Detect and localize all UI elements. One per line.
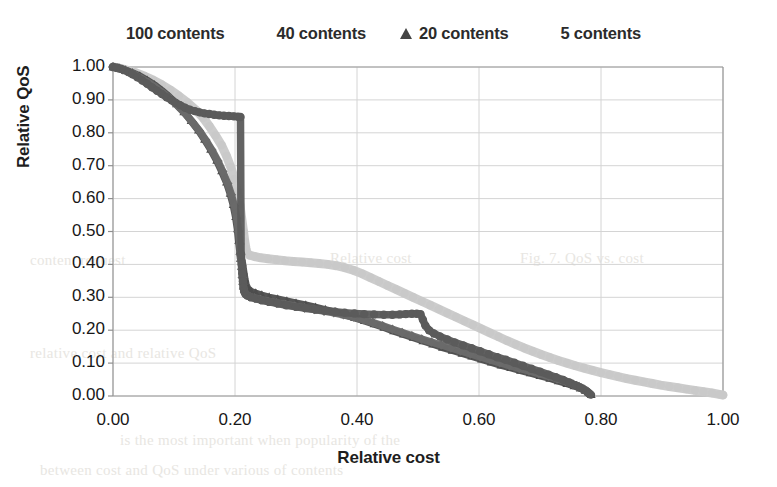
legend-label-20-contents: 20 contents — [419, 24, 509, 43]
data-point-marker — [527, 364, 535, 372]
data-point-marker — [467, 344, 475, 352]
data-point-marker — [552, 373, 560, 381]
data-point-marker — [256, 254, 264, 262]
data-point-marker — [349, 266, 357, 274]
x-axis-tick-label: 0.20 — [200, 410, 270, 430]
data-point-marker — [264, 255, 272, 263]
data-point-marker — [485, 350, 493, 358]
data-point-marker — [298, 258, 306, 266]
data-series-group — [108, 62, 727, 399]
data-point-marker — [258, 296, 266, 304]
x-axis-tick-label: 0.00 — [78, 410, 148, 430]
legend-item-20-contents[interactable]: 20 contents — [400, 24, 509, 43]
data-point-marker — [211, 131, 219, 139]
data-point-marker — [494, 333, 502, 341]
legend-item-100-contents[interactable]: 100 contents — [108, 24, 224, 43]
chart-legend: 100 contents 40 contents 20 contents 5 c… — [108, 18, 708, 48]
data-point-marker — [528, 347, 536, 355]
data-point-marker — [614, 372, 622, 380]
y-axis-tick-label: 0.70 — [43, 155, 105, 175]
chart-figure: 100 contents 40 contents 20 contents 5 c… — [0, 0, 777, 487]
data-point-marker — [358, 269, 366, 277]
data-point-marker — [443, 335, 451, 343]
data-point-marker — [366, 273, 374, 281]
data-point-marker — [546, 353, 554, 361]
data-point-marker — [622, 374, 630, 382]
data-point-marker — [588, 366, 596, 374]
data-point-marker — [476, 347, 484, 355]
data-point-marker — [450, 338, 458, 346]
y-axis-tick-label: 0.80 — [43, 122, 105, 142]
data-point-marker — [665, 382, 673, 390]
data-point-marker — [281, 257, 289, 265]
data-point-marker — [443, 309, 451, 317]
y-axis-tick-label: 0.60 — [43, 188, 105, 208]
data-point-marker — [409, 293, 417, 301]
data-point-marker — [511, 340, 519, 348]
data-point-marker — [341, 263, 349, 271]
legend-label-100-contents: 100 contents — [126, 24, 224, 43]
data-point-marker — [321, 307, 329, 315]
data-point-marker — [265, 298, 273, 306]
data-point-marker — [719, 391, 727, 399]
data-point-marker — [571, 362, 579, 370]
data-point-marker — [502, 356, 510, 364]
data-point-marker — [674, 384, 682, 392]
data-point-marker — [332, 262, 340, 270]
data-point-marker — [388, 311, 396, 319]
data-point-marker — [426, 301, 434, 309]
data-point-marker — [217, 141, 225, 149]
data-point-marker — [631, 376, 639, 384]
data-point-marker — [520, 344, 528, 352]
data-point-marker — [657, 381, 665, 389]
data-point-marker — [238, 269, 246, 277]
data-point-marker — [536, 367, 544, 375]
data-point-marker — [708, 389, 716, 397]
data-point-marker — [469, 321, 477, 329]
y-axis-tick-label: 0.30 — [43, 286, 105, 306]
data-point-marker — [417, 297, 425, 305]
data-point-marker — [315, 259, 323, 267]
x-axis-tick-label: 0.60 — [444, 410, 514, 430]
data-point-marker — [436, 332, 444, 340]
data-point-marker — [360, 310, 368, 318]
data-point-marker — [519, 362, 527, 370]
data-point-marker — [699, 388, 707, 396]
data-point-marker — [272, 256, 280, 264]
y-axis-title: Relative QoS — [14, 66, 34, 168]
legend-marker-diamond-icon — [258, 27, 271, 40]
data-point-marker — [477, 325, 485, 333]
data-point-marker — [640, 378, 648, 386]
data-point-marker — [392, 285, 400, 293]
data-point-marker — [563, 359, 571, 367]
legend-item-40-contents[interactable]: 40 contents — [258, 24, 366, 43]
data-point-marker — [205, 122, 213, 130]
x-axis-tick-label: 0.80 — [566, 410, 636, 430]
y-axis-tick-label: 0.10 — [43, 352, 105, 372]
data-point-marker — [324, 260, 332, 268]
x-axis-tick-label: 0.40 — [322, 410, 392, 430]
y-axis-tick-label: 0.00 — [43, 385, 105, 405]
y-axis-tick-label: 1.00 — [43, 56, 105, 76]
y-axis-tick-label: 0.20 — [43, 319, 105, 339]
data-point-marker — [486, 329, 494, 337]
data-point-marker — [341, 309, 349, 317]
data-point-marker — [370, 310, 378, 318]
data-point-marker — [227, 163, 235, 171]
data-point-marker — [331, 308, 339, 316]
data-point-marker — [460, 317, 468, 325]
data-point-marker — [597, 368, 605, 376]
legend-marker-circle-icon — [108, 28, 119, 39]
data-point-marker — [459, 341, 467, 349]
legend-marker-triangle-icon — [400, 28, 412, 39]
legend-item-5-contents[interactable]: 5 contents — [542, 24, 641, 43]
data-point-marker — [375, 277, 383, 285]
legend-label-5-contents: 5 contents — [560, 24, 641, 43]
data-point-marker — [236, 113, 244, 121]
data-point-marker — [274, 299, 282, 307]
data-point-marker — [400, 289, 408, 297]
data-point-marker — [586, 390, 594, 398]
data-point-marker — [691, 386, 699, 394]
data-point-marker — [237, 250, 245, 258]
data-point-marker — [452, 313, 460, 321]
